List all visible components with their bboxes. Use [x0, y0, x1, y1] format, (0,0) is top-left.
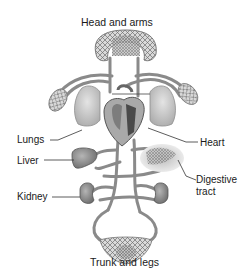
digestive-tract-label-line2: tract	[196, 186, 215, 197]
heart-leader-line	[148, 128, 198, 142]
lungs-leader-line	[50, 130, 82, 140]
heart-label: Heart	[200, 137, 224, 148]
digestive-tract	[140, 144, 184, 172]
liver-label: Liver	[17, 155, 39, 166]
kidney-label: Kidney	[17, 191, 48, 202]
digestive-tract-label-line1: Digestive	[196, 174, 237, 185]
head-arms-capillary-bed	[95, 30, 156, 61]
head-and-arms-label: Head and arms	[81, 17, 153, 28]
liver	[72, 148, 97, 168]
heart	[104, 86, 150, 146]
circulatory-system-diagram: Head and arms Lungs Heart Liver Digestiv…	[0, 0, 251, 275]
lungs-label: Lungs	[17, 134, 44, 145]
trunk-and-legs-label: Trunk and legs	[90, 257, 159, 268]
kidneys	[80, 183, 168, 204]
